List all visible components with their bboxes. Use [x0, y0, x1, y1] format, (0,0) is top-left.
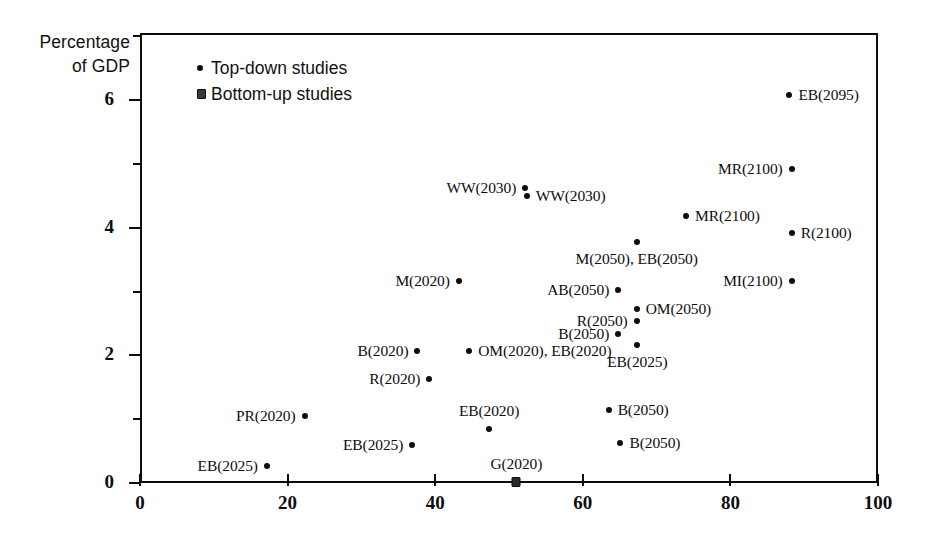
y-tick-label: 4	[50, 216, 114, 238]
data-point-marker	[426, 376, 432, 382]
data-point-label: EB(2020)	[459, 402, 519, 420]
legend-item-label: Bottom-up studies	[211, 84, 352, 105]
y-axis-title: Percentageof GDP	[12, 30, 130, 78]
x-tick-major	[877, 474, 879, 486]
data-point-label: EB(2025)	[607, 353, 667, 371]
data-point-label: R(2100)	[801, 224, 852, 242]
y-tick-minor	[133, 291, 141, 293]
data-point-marker	[615, 287, 621, 293]
y-tick-minor	[133, 163, 141, 165]
data-point-marker	[789, 166, 795, 172]
y-tick-minor	[133, 418, 141, 420]
data-point-marker	[456, 278, 462, 284]
data-point-marker	[524, 193, 530, 199]
x-tick-label: 20	[248, 492, 328, 514]
y-tick-label: 6	[50, 88, 114, 110]
x-tick-major	[729, 474, 731, 486]
legend-dot-marker-icon	[197, 65, 203, 71]
x-tick-label: 100	[838, 492, 918, 514]
data-point-marker	[634, 342, 640, 348]
x-tick-major	[582, 474, 584, 486]
data-point-label: MR(2100)	[718, 160, 783, 178]
data-point-marker	[615, 331, 621, 337]
data-point-marker	[512, 477, 521, 487]
data-point-label: B(2050)	[629, 434, 680, 452]
y-tick-label: 0	[50, 471, 114, 493]
data-point-label: R(2020)	[369, 370, 420, 388]
data-point-marker	[634, 318, 640, 324]
data-point-label: M(2050), EB(2050)	[576, 250, 698, 268]
data-point-marker	[466, 348, 472, 354]
y-tick-minor	[133, 35, 141, 37]
data-point-marker	[409, 442, 415, 448]
data-point-marker	[414, 348, 420, 354]
chart-canvas: Percentageof GDP 0246020406080100 EB(209…	[0, 0, 926, 548]
data-point-marker	[302, 413, 308, 419]
data-point-marker	[789, 230, 795, 236]
data-point-marker	[634, 239, 640, 245]
y-tick-major	[129, 354, 141, 356]
data-point-label: G(2020)	[490, 455, 542, 473]
x-tick-major	[287, 474, 289, 486]
y-axis-title-line2: of GDP	[12, 54, 130, 78]
data-point-label: OM(2020), EB(2020)	[478, 342, 611, 360]
data-point-label: AB(2050)	[547, 281, 609, 299]
data-point-label: B(2050)	[558, 325, 609, 343]
data-point-label: B(2050)	[618, 401, 669, 419]
x-tick-label: 0	[100, 492, 180, 514]
data-point-marker	[522, 185, 528, 191]
y-tick-major	[129, 99, 141, 101]
x-tick-label: 60	[543, 492, 623, 514]
data-point-label: B(2020)	[358, 342, 409, 360]
data-point-marker	[789, 278, 795, 284]
x-tick-label: 80	[690, 492, 770, 514]
y-tick-label: 2	[50, 343, 114, 365]
data-point-label: PR(2020)	[236, 407, 295, 425]
data-point-label: MR(2100)	[695, 207, 760, 225]
x-tick-major	[434, 474, 436, 486]
legend-item-label: Top-down studies	[211, 58, 347, 79]
data-point-label: WW(2030)	[536, 187, 606, 205]
data-point-label: EB(2025)	[198, 457, 258, 475]
data-point-label: EB(2095)	[798, 86, 858, 104]
data-point-label: MI(2100)	[723, 272, 782, 290]
data-point-marker	[264, 463, 270, 469]
data-point-marker	[617, 440, 623, 446]
data-point-label: M(2020)	[395, 272, 449, 290]
y-axis-title-line1: Percentage	[12, 30, 130, 54]
data-point-marker	[486, 426, 492, 432]
y-tick-major	[129, 227, 141, 229]
data-point-marker	[634, 306, 640, 312]
data-point-label: WW(2030)	[446, 179, 516, 197]
data-point-marker	[786, 92, 792, 98]
data-point-marker	[606, 407, 612, 413]
x-tick-major	[139, 474, 141, 486]
legend-square-marker-icon	[197, 89, 206, 99]
data-point-label: EB(2025)	[343, 436, 403, 454]
x-tick-label: 40	[395, 492, 475, 514]
data-point-label: OM(2050)	[646, 300, 712, 318]
data-point-marker	[683, 213, 689, 219]
